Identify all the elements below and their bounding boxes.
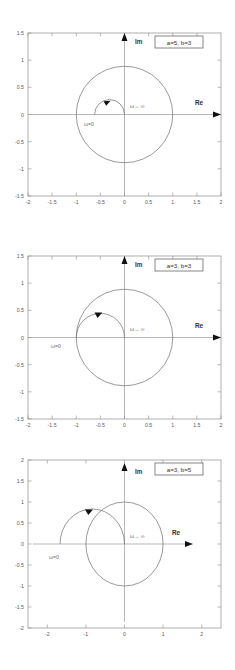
x-tick-label: 0.5 (145, 199, 152, 205)
y-tick-label: 0 (21, 112, 24, 118)
direction-arrowhead-icon (104, 101, 111, 106)
y-tick-label: 1 (21, 499, 24, 505)
nyquist-arc-curve (60, 509, 125, 544)
x-tick-label: 0 (123, 631, 126, 637)
y-tick-label: 1 (21, 57, 24, 63)
omega-zero-label: ω=0 (51, 343, 61, 349)
y-tick-label: -1 (19, 166, 24, 172)
x-tick-label: -1 (74, 422, 79, 428)
y-tick-labels: 1.5 1 0.5 0 -0.5 -1 -1.5 (15, 253, 24, 422)
x-tick-label: -0.5 (96, 422, 105, 428)
parameter-box-label: a=3, b=3 (167, 262, 192, 269)
x-tick-label: 0.5 (145, 422, 152, 428)
nyquist-arc-curve (76, 313, 124, 337)
x-tick-label: -1.5 (48, 199, 57, 205)
x-tick-label: 1 (171, 199, 174, 205)
x-tick-labels: -2 -1 0 1 2 (45, 631, 203, 637)
x-tick-label: -1 (84, 631, 89, 637)
imaginary-axis-label: Im (135, 468, 143, 475)
plot-panel-1: -2 -1.5 -1 -0.5 0 0.5 1 1.5 2 1.5 1 0.5 … (0, 0, 235, 223)
y-tick-label: 0 (21, 335, 24, 341)
parameter-box: a=5, b=3 (155, 36, 203, 48)
x-tick-label: -2 (26, 422, 31, 428)
y-tick-label: 0.5 (17, 307, 24, 313)
direction-arrowhead-icon (95, 313, 103, 318)
x-tick-label: 2 (220, 422, 223, 428)
parameter-box: a=3, b=5 (155, 463, 203, 475)
imaginary-axis-arrow-icon (122, 256, 128, 264)
imaginary-axis-arrow-icon (122, 463, 128, 471)
real-axis-arrow-icon (213, 112, 221, 118)
y-tick-label: 1.5 (17, 478, 24, 484)
plot-panel-2: -2 -1.5 -1 -0.5 0 0.5 1 1.5 2 1.5 1 0.5 … (0, 223, 235, 446)
x-tick-label: 1 (171, 422, 174, 428)
y-tick-label: -2 (19, 625, 24, 631)
omega-infinity-label: ω→ ∞ (130, 533, 145, 539)
real-axis-label: Re (172, 529, 181, 536)
x-tick-label: -1 (74, 199, 79, 205)
y-tick-label: 1 (21, 280, 24, 286)
direction-arrowhead-icon (85, 510, 93, 516)
x-tick-label: 1.5 (193, 199, 200, 205)
parameter-box-label: a=3, b=5 (167, 466, 192, 473)
y-tick-label: -1.5 (15, 193, 24, 199)
y-tick-label: -0.5 (15, 139, 24, 145)
omega-zero-label: ω=0 (49, 554, 59, 560)
x-tick-label: -2 (26, 199, 31, 205)
real-axis-arrow-icon (213, 335, 221, 341)
y-tick-label: 1.5 (17, 30, 24, 36)
x-tick-label: 1.5 (193, 422, 200, 428)
y-tick-label: 1.5 (17, 253, 24, 259)
imaginary-axis-arrow-icon (122, 33, 128, 41)
x-tick-label: -2 (45, 631, 50, 637)
y-tick-label: -0.5 (15, 362, 24, 368)
y-tick-label: 0.5 (17, 520, 24, 526)
x-tick-label: 0 (123, 199, 126, 205)
x-tick-label: -1.5 (48, 422, 57, 428)
y-tick-labels: 1.5 1 0.5 0 -0.5 -1 -1.5 (15, 30, 24, 199)
real-axis-label: Re (195, 99, 204, 106)
y-tick-label: 2 (21, 457, 24, 463)
omega-infinity-label: ω→ ∞ (130, 103, 145, 109)
figure-page: -2 -1.5 -1 -0.5 0 0.5 1 1.5 2 1.5 1 0.5 … (0, 0, 235, 670)
plot-panel-3: -2 -1 0 1 2 2 1.5 1 0.5 0 -0.5 -1 -1.5 -… (0, 446, 235, 669)
real-axis-arrow-icon (185, 541, 193, 547)
parameter-box: a=3, b=3 (155, 259, 203, 271)
x-tick-labels: -2 -1.5 -1 -0.5 0 0.5 1 1.5 2 (26, 422, 223, 428)
y-tick-label: -1 (19, 389, 24, 395)
y-tick-label: 0.5 (17, 84, 24, 90)
omega-infinity-label: ω→ ∞ (130, 326, 145, 332)
y-tick-label: -1.5 (15, 604, 24, 610)
y-tick-label: -1.5 (15, 416, 24, 422)
y-tick-labels: 2 1.5 1 0.5 0 -0.5 -1 -1.5 -2 (15, 457, 24, 631)
y-tick-label: -1 (19, 583, 24, 589)
parameter-box-label: a=5, b=3 (167, 39, 192, 46)
omega-zero-label: ω=0 (84, 121, 94, 127)
x-tick-label: 2 (200, 631, 203, 637)
x-tick-labels: -2 -1.5 -1 -0.5 0 0.5 1 1.5 2 (26, 199, 223, 205)
real-axis-label: Re (195, 322, 204, 329)
x-tick-label: 1 (162, 631, 165, 637)
y-tick-label: -0.5 (15, 562, 24, 568)
y-tick-label: 0 (21, 541, 24, 547)
x-tick-label: 0 (123, 422, 126, 428)
imaginary-axis-label: Im (135, 38, 143, 45)
x-tick-label: 2 (220, 199, 223, 205)
x-tick-label: -0.5 (96, 199, 105, 205)
imaginary-axis-label: Im (135, 261, 143, 268)
